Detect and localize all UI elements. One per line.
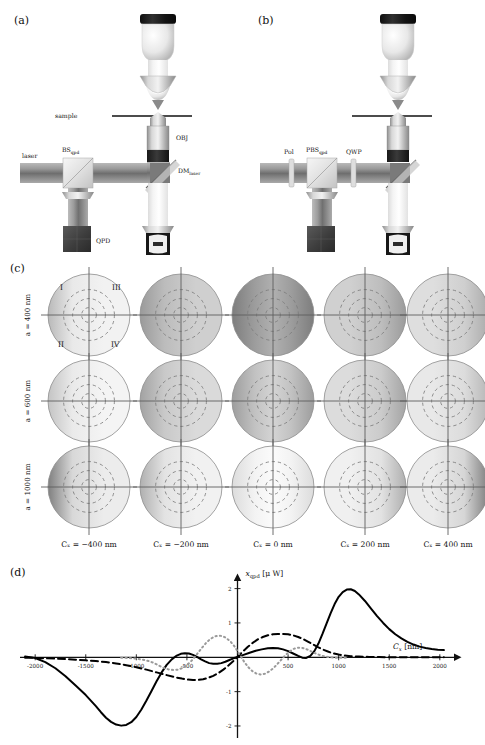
label-pbs: PBSqpd <box>306 146 328 155</box>
quadrant-label-IV: IV <box>111 340 120 349</box>
objective <box>147 112 169 162</box>
disk-row2-col3 <box>225 353 321 449</box>
panel-b-figure: Pol PBSqpd QWP <box>240 0 485 258</box>
panel-a-figure: sample OBJ DMlaser laser BSqpd QPD <box>0 0 245 258</box>
y-axis-label: xqpd [μ W] <box>246 569 284 580</box>
disk-row3-col4 <box>317 439 413 535</box>
col-label-0: Cₓ = −400 nm <box>61 540 117 549</box>
label-sample: sample <box>55 112 78 120</box>
disk-row1-col3 <box>225 267 321 363</box>
x-axis-label: Cx [nm] <box>393 642 422 652</box>
disk-row2-col5 <box>400 353 485 449</box>
x-tick--1500: -1500 <box>78 663 95 669</box>
label-qpd: QPD <box>96 237 110 244</box>
col-label-4: Cₓ = 400 nm <box>423 540 472 549</box>
pbs-cube <box>307 158 337 188</box>
label-bs: BSqpd <box>62 146 79 155</box>
disk-row3-col1 <box>41 439 137 535</box>
disk-row3-col3 <box>225 439 321 535</box>
panel-c-figure: IIIIIIIVa = 400 nma = 600 nma = 1000 nmC… <box>0 258 485 563</box>
beamsplitter-cube <box>63 158 93 188</box>
label-obj: OBJ <box>176 134 189 142</box>
label-laser: laser <box>22 152 38 159</box>
disk-row2-col4 <box>317 353 413 449</box>
x-tick-2000: 2000 <box>433 663 448 669</box>
row-label-1: a = 600 nm <box>23 380 32 423</box>
y-tick-2: 2 <box>228 586 232 592</box>
detection-beam <box>148 183 168 228</box>
disk-row1-col2 <box>133 267 229 363</box>
quadrant-label-III: III <box>112 283 121 292</box>
tube-lens <box>140 76 176 110</box>
col-label-2: Cₓ = 0 nm <box>253 540 293 549</box>
row-label-0: a = 400 nm <box>23 294 32 337</box>
col-label-1: Cₓ = −200 nm <box>153 540 209 549</box>
tube-lens-b <box>380 76 416 110</box>
detection-beam-b <box>388 183 408 228</box>
polarizer-plate <box>289 159 294 187</box>
series-dotted <box>121 636 349 675</box>
disk-row1-col4 <box>317 267 413 363</box>
y-tick--2: -2 <box>226 723 232 729</box>
disk-row1-col5 <box>400 267 485 363</box>
camera-body <box>140 14 176 76</box>
disk-row2-col2 <box>133 353 229 449</box>
x-tick--2000: -2000 <box>27 663 44 669</box>
x-tick-1500: 1500 <box>382 663 397 669</box>
disk-row2-col1 <box>41 353 137 449</box>
disk-row3-col5 <box>400 439 485 535</box>
y-tick--1: -1 <box>226 689 231 695</box>
x-tick-1000: 1000 <box>332 663 347 669</box>
camera-bottom <box>149 235 167 254</box>
x-tick-500: 500 <box>283 663 294 669</box>
label-pol: Pol <box>284 148 294 155</box>
disk-row3-col2 <box>133 439 229 535</box>
panel-d-figure: -2000-1500-1000-50050010001500200021-1-2… <box>0 560 485 745</box>
camera-bottom-b <box>389 235 407 254</box>
qwp-plate <box>351 159 356 187</box>
row-label-2: a = 1000 nm <box>23 463 32 510</box>
disk-row1-col1 <box>41 267 137 363</box>
camera-body-b <box>380 14 416 76</box>
label-dm: DMlaser <box>178 167 201 176</box>
objective-b <box>387 112 409 162</box>
y-tick-1: 1 <box>228 620 232 626</box>
col-label-3: Cₓ = 200 nm <box>340 540 389 549</box>
quadrant-label-I: I <box>60 283 63 292</box>
label-qwp: QWP <box>346 148 362 155</box>
quadrant-label-II: II <box>58 340 64 349</box>
